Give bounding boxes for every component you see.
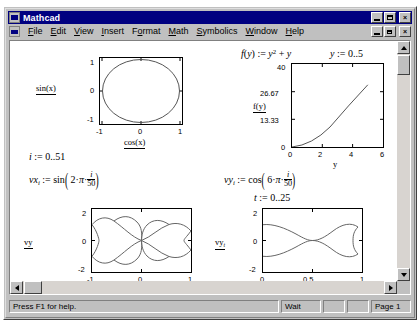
worksheet-canvas[interactable]: sin(x) 1 0 -1 -1 0 1 cos(x) f(y) := y2 +…	[10, 41, 397, 281]
circle-plot-xtick-mid: 0	[138, 127, 142, 136]
circle-plot[interactable]	[99, 57, 183, 125]
vy-assign: :=	[237, 174, 245, 185]
y-range-expression[interactable]: y := 0..5	[330, 48, 363, 59]
circle-plot-xlabel[interactable]: cos(x)	[124, 137, 145, 149]
exponent-2: 2	[273, 48, 276, 55]
parabola-plot-svg	[292, 64, 383, 147]
vy-symbol: vy	[224, 174, 233, 185]
scroll-up-button[interactable]	[397, 41, 410, 54]
i-range-var: i	[29, 151, 32, 162]
parabola-xtick-0: 0	[288, 150, 292, 159]
assign-operator: :=	[257, 48, 265, 59]
horizontal-scroll-thumb[interactable]	[24, 281, 42, 294]
parabola-xlabel[interactable]: y	[333, 159, 337, 169]
circle-plot-ylabel[interactable]: sin(x)	[36, 83, 56, 95]
y-term-2: y	[287, 48, 291, 59]
vertical-scroll-thumb[interactable]	[397, 55, 410, 75]
child-restore-button[interactable]	[384, 26, 396, 37]
vx-frac-num: i	[87, 171, 95, 179]
mathcad-window: Mathcad × File Edit View Insert Format M…	[3, 6, 417, 320]
vx-coef: 2	[71, 174, 76, 185]
vx-symbol: vx	[29, 174, 38, 185]
circle-plot-ytick-bottom: -1	[87, 115, 94, 124]
vy-cos: cos	[248, 174, 261, 185]
status-mode: Wait	[281, 300, 321, 313]
menu-item-format[interactable]: Format	[128, 26, 165, 37]
f-definition-expression[interactable]: f(y) := y2 + y	[241, 48, 291, 59]
scroll-right-button[interactable]	[384, 281, 397, 294]
parabola-plot[interactable]	[291, 63, 384, 148]
menu-item-file[interactable]: File	[24, 26, 47, 37]
parabola-ylabel[interactable]: f(y)	[253, 101, 266, 113]
menu-item-view[interactable]: View	[70, 26, 97, 37]
maximize-button[interactable]	[384, 12, 396, 23]
parabola-xtick-2: 2	[318, 150, 322, 159]
arrow-right-icon	[389, 285, 393, 291]
y-range-end: 5	[358, 48, 363, 59]
window-controls: ×	[371, 12, 412, 23]
window-title: Mathcad	[23, 13, 60, 23]
menu-item-edit[interactable]: Edit	[47, 26, 71, 37]
scroll-left-button[interactable]	[10, 281, 23, 294]
i-range-expression[interactable]: i := 0..51	[29, 151, 65, 162]
arrow-down-icon	[401, 273, 407, 277]
status-page: Page 1	[371, 300, 411, 313]
child-close-button[interactable]: ×	[399, 26, 411, 37]
lissajous-ylabel[interactable]: vy	[24, 237, 33, 249]
y-range-var: y	[330, 48, 334, 59]
parabola-ytick-40: 40	[277, 63, 285, 72]
lissajous-plot-svg	[92, 209, 191, 272]
lissajous-t-ylabel-base: vy	[215, 237, 224, 247]
menu-item-insert[interactable]: Insert	[97, 26, 128, 37]
menu-item-window[interactable]: Window	[242, 26, 282, 37]
circle-plot-ytick-top: 1	[90, 58, 94, 67]
scroll-down-button[interactable]	[397, 268, 410, 281]
lissajous-plot[interactable]	[91, 208, 192, 273]
vx-frac-den: 50	[87, 179, 95, 189]
circle-plot-svg	[100, 58, 182, 124]
lissajous-t-plot[interactable]	[262, 208, 363, 273]
vx-sin: sin	[53, 174, 65, 185]
mdi-child-controls: ×	[371, 26, 412, 37]
document-icon[interactable]	[9, 26, 20, 37]
t-range-var: t	[254, 192, 257, 203]
i-range-end: 51	[55, 151, 65, 162]
vx-pi: π	[79, 174, 84, 185]
y-range-assign: :=	[337, 48, 345, 59]
parabola-xtick-6: 6	[380, 150, 384, 159]
vertical-scrollbar[interactable]	[397, 41, 410, 281]
status-message: Press F1 for help.	[9, 300, 279, 313]
lissajous-ytick-0: 0	[82, 237, 86, 246]
mathcad-icon[interactable]	[9, 12, 20, 23]
lissajous-t-ylabel-sub: t	[224, 242, 226, 248]
t-range-expression[interactable]: t := 0..25	[254, 192, 290, 203]
parabola-ytick-13: 13.33	[260, 116, 279, 125]
vx-definition-expression[interactable]: vxi := sin( 2·π·i50)	[29, 171, 99, 189]
lissajous-ytick-2: 2	[82, 209, 86, 218]
close-button[interactable]: ×	[399, 12, 411, 23]
circle-plot-ytick-mid: 0	[90, 86, 94, 95]
circle-plot-xtick-left: -1	[96, 127, 103, 136]
minimize-button[interactable]	[371, 12, 383, 23]
lissajous-t-ylabel[interactable]: vyt	[215, 237, 225, 250]
lissajous-t-ytick-0: 0	[253, 237, 257, 246]
vx-assign: :=	[42, 174, 50, 185]
lissajous-t-ytick-2: 2	[253, 209, 257, 218]
scrollbar-corner	[397, 281, 410, 294]
parabola-ytick-0: 0	[281, 143, 285, 152]
horizontal-scrollbar[interactable]	[10, 281, 397, 294]
i-range-assign: :=	[34, 151, 42, 162]
t-range-assign: :=	[259, 192, 267, 203]
status-field-a	[323, 300, 345, 313]
document-area: sin(x) 1 0 -1 -1 0 1 cos(x) f(y) := y2 +…	[9, 40, 411, 295]
child-minimize-button[interactable]	[371, 26, 383, 37]
status-field-b	[347, 300, 369, 313]
menu-item-help[interactable]: Help	[282, 26, 309, 37]
lissajous-ytick-m2: -2	[78, 265, 85, 274]
menu-item-symbolics[interactable]: Symbolics	[192, 26, 241, 37]
parabola-xtick-4: 4	[349, 150, 353, 159]
vy-frac-den: 50	[284, 179, 292, 189]
menu-item-math[interactable]: Math	[164, 26, 192, 37]
title-bar: Mathcad ×	[8, 11, 412, 24]
vy-definition-expression[interactable]: vyi := cos( 6·π·i50)	[224, 171, 295, 189]
